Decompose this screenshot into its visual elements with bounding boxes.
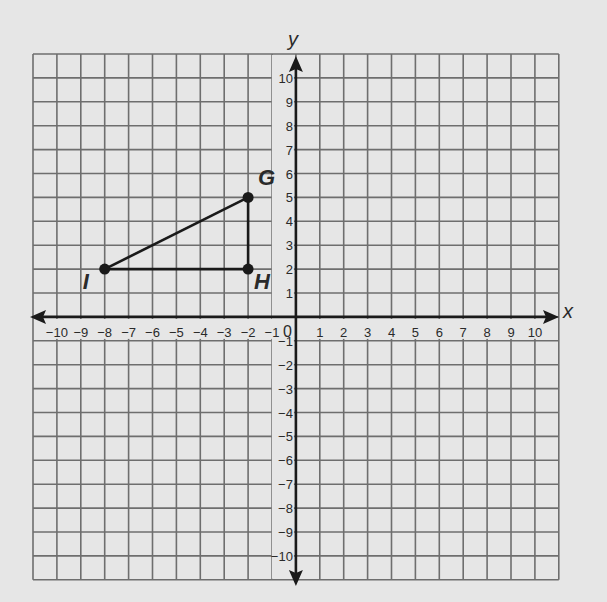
x-tick-label: 6	[436, 325, 443, 340]
y-tick-label: −9	[278, 525, 293, 540]
y-tick-label: −6	[278, 453, 293, 468]
x-tick-label: −5	[169, 325, 184, 340]
triangle-ghi: GHI	[83, 165, 276, 294]
x-axis-label: x	[562, 300, 574, 322]
y-tick-label: 3	[286, 238, 293, 253]
x-tick-label: −8	[97, 325, 112, 340]
y-tick-label: −3	[278, 382, 293, 397]
x-tick-label: −3	[217, 325, 232, 340]
y-tick-label: 4	[286, 214, 293, 229]
point-h	[243, 264, 254, 275]
y-tick-label: 1	[286, 286, 293, 301]
axes	[30, 55, 559, 586]
x-tick-label: 10	[528, 325, 542, 340]
x-tick-label: 7	[460, 325, 467, 340]
y-tick-label: 2	[286, 262, 293, 277]
point-label-g: G	[258, 165, 275, 190]
y-tick-label: 7	[286, 143, 293, 158]
y-tick-label: −8	[278, 501, 293, 516]
y-tick-label: 8	[286, 119, 293, 134]
x-tick-label: 8	[483, 325, 490, 340]
y-tick-label: 9	[286, 95, 293, 110]
x-tick-label: 4	[388, 325, 395, 340]
x-tick-label: 3	[364, 325, 371, 340]
x-tick-label: 5	[412, 325, 419, 340]
x-tick-label: 1	[316, 325, 323, 340]
point-label-i: I	[83, 269, 90, 294]
y-tick-label: −2	[278, 358, 293, 373]
coordinate-plane: −10−9−8−7−6−5−4−3−2−11234567891010987654…	[0, 0, 607, 602]
x-tick-label: −9	[73, 325, 88, 340]
x-tick-label: −4	[193, 325, 208, 340]
x-tick-label: −2	[241, 325, 256, 340]
y-tick-label: −5	[278, 429, 293, 444]
y-tick-label: 5	[286, 190, 293, 205]
y-tick-label: −4	[278, 406, 293, 421]
y-tick-label: 6	[286, 167, 293, 182]
y-tick-label: −10	[271, 549, 293, 564]
point-g	[243, 192, 254, 203]
y-axis-label: y	[286, 28, 299, 50]
point-label-h: H	[254, 269, 271, 294]
origin-label: 0	[283, 323, 292, 340]
y-tick-label: 10	[278, 71, 292, 86]
x-tick-label: −10	[46, 325, 68, 340]
x-tick-label: 9	[507, 325, 514, 340]
x-tick-label: 2	[340, 325, 347, 340]
x-tick-label: −7	[121, 325, 136, 340]
x-tick-label: −6	[145, 325, 160, 340]
y-tick-label: −7	[278, 477, 293, 492]
point-i	[99, 264, 110, 275]
